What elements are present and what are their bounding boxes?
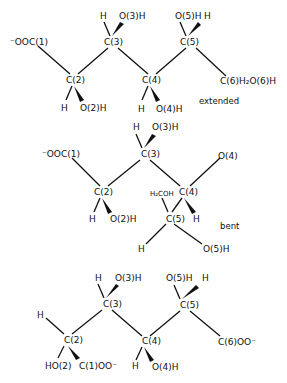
label-c3: C(3)	[103, 299, 122, 309]
bond-c5-o5	[180, 22, 186, 36]
bond-c5-c6	[196, 48, 226, 76]
bond-c4-h	[142, 86, 148, 100]
bond-c3-c4	[150, 160, 180, 186]
bond-c3-c4	[112, 310, 142, 336]
label-c5: C(5)	[180, 37, 199, 47]
label-h3: H	[95, 273, 102, 283]
wedge-c2-o2	[102, 198, 112, 214]
label-h4: H	[132, 361, 139, 371]
label-c3: C(3)	[141, 149, 160, 159]
bond-c4-c5	[172, 198, 182, 212]
label-c4: C(4)	[142, 336, 161, 346]
label-h4: H	[138, 104, 145, 114]
bond-c1-c2	[72, 158, 100, 186]
bond-c2-c3	[72, 310, 102, 334]
label-o5: O(5)H	[166, 273, 193, 283]
bond-c3-h	[104, 22, 110, 36]
wedge-c4-o4	[150, 86, 160, 102]
label-o4: O(4)	[218, 151, 238, 161]
structure-bent: ⁻OOC(1) C(2) C(3) C(4) C(5) H O(2)H H O(…	[42, 122, 240, 254]
label-c2: C(2)	[94, 187, 113, 197]
bond-c5-c6	[190, 311, 220, 336]
bond-c1-c2	[38, 46, 70, 74]
structure-third: C(2) C(3) C(4) C(5) C(6)OO⁻ H HO(2) C(1)…	[37, 273, 256, 372]
wedge-c3-o3	[112, 22, 124, 36]
bond-c2-h	[66, 86, 72, 100]
label-o4: O(4)H	[152, 362, 179, 372]
label-c1: C(1)OO⁻	[79, 361, 117, 371]
bond-c5-o5	[174, 224, 202, 244]
label-c2: C(2)	[66, 75, 85, 85]
bond-c3-c4	[118, 48, 148, 74]
label-h2: H	[37, 310, 44, 320]
bond-c2-h	[46, 318, 64, 334]
label-c4: C(4)	[142, 75, 161, 85]
bond-c5-h	[146, 224, 166, 244]
bond-c4-c5	[150, 311, 180, 336]
bond-c5-o5	[174, 285, 180, 299]
chemical-structure-diagram: ⁻OOC(1) C(2) C(3) C(4) C(5) C(6)H₂O(6)H …	[0, 0, 287, 383]
label-h4: H	[193, 214, 200, 224]
label-h5: H	[202, 273, 209, 283]
bond-c2-ho2	[58, 346, 64, 358]
label-o4: O(4)H	[156, 104, 183, 114]
label-o3: O(3)H	[119, 11, 146, 21]
label-c6: C(6)H₂O(6)H	[220, 76, 276, 86]
wedge-c2-o2	[74, 86, 84, 102]
wedge-c3-o3	[106, 284, 119, 298]
structure-extended: ⁻OOC(1) C(2) C(3) C(4) C(5) C(6)H₂O(6)H …	[10, 11, 276, 114]
label-c1: ⁻OOC(1)	[10, 37, 48, 47]
bond-c3-h	[98, 284, 104, 298]
wedge-c4-h	[184, 198, 196, 214]
wedge-c4-o4	[144, 347, 154, 362]
label-o2: O(2)H	[80, 103, 107, 113]
label-h2: H	[89, 214, 96, 224]
bond-c5-h2coh	[162, 198, 168, 212]
label-o2: O(2)H	[110, 214, 137, 224]
bond-c3-h	[136, 134, 142, 148]
wedge-c5-h	[182, 285, 199, 299]
label-c5: C(5)	[180, 300, 199, 310]
label-o5: O(5)H	[203, 244, 230, 254]
bond-c4-c5	[156, 48, 186, 74]
label-c6: C(6)OO⁻	[218, 337, 256, 347]
bond-c2-c3	[108, 160, 140, 186]
bond-c4-o4	[190, 158, 220, 186]
bond-c2-c3	[78, 48, 108, 74]
label-c3: C(3)	[104, 37, 123, 47]
label-o3: O(3)H	[152, 122, 179, 132]
label-c5: C(5)	[166, 214, 185, 224]
label-h2: H	[61, 103, 68, 113]
label-c2: C(2)	[64, 335, 83, 345]
label-o5: O(5)H	[175, 11, 202, 21]
label-h3: H	[100, 11, 107, 21]
label-h5: H	[204, 11, 211, 21]
caption-bent: bent	[220, 221, 240, 231]
bond-c2-h	[94, 198, 100, 212]
wedge-c2-c1	[68, 346, 80, 360]
label-o3: O(3)H	[115, 273, 142, 283]
label-h5: H	[138, 244, 145, 254]
caption-extended: extended	[199, 96, 239, 106]
label-ho2: HO(2)	[45, 361, 72, 371]
label-c4: C(4)	[179, 187, 198, 197]
wedge-c3-o3	[144, 134, 156, 148]
label-h2coh: H₂COH	[150, 190, 174, 198]
wedge-c5-h	[188, 22, 201, 36]
label-h3: H	[133, 122, 140, 132]
bond-c4-h	[136, 347, 142, 360]
label-c1: ⁻OOC(1)	[42, 149, 80, 159]
